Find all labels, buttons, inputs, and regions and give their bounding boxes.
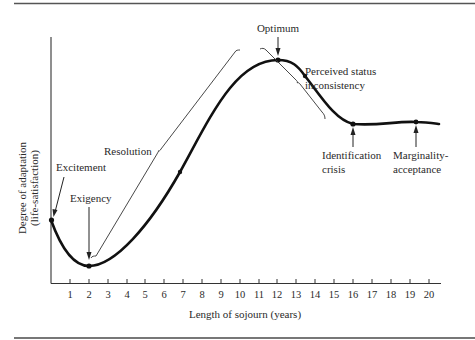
adaptation-curve [51,60,439,266]
tick-label: 12 [272,289,283,300]
excitement-arrow-icon [53,177,65,217]
tick-label: 3 [105,289,110,300]
x-ticks [70,279,429,284]
label-marginality-line1: Marginality- [393,149,449,161]
label-identification-line1: Identification [322,149,382,161]
marginality-arrow-icon [414,125,419,147]
tick-label: 1 [67,289,72,300]
label-excitement: Excitement [56,161,106,173]
label-marginality-line2: acceptance [393,163,441,175]
tick-label: 5 [142,289,147,300]
tick-label: 7 [180,289,185,300]
label-exigency: Exigency [70,192,112,204]
tick-label: 8 [199,289,204,300]
tick-label: 20 [424,289,435,300]
tick-label: 9 [218,289,223,300]
y-axis-title: Degree of adaptation (life-satisfaction) [16,141,41,234]
identification-arrow-icon [351,127,356,147]
tick-label: 13 [291,289,302,300]
tick-label: 14 [310,289,321,300]
label-perceived-line1: Perceived status [305,65,376,77]
label-resolution: Resolution [104,145,152,157]
tick-label: 6 [161,289,166,300]
tick-label: 11 [254,289,264,300]
x-axis-title: Length of sojourn (years) [189,308,301,321]
tick-label: 15 [329,289,340,300]
exigency-arrow-icon [87,207,92,260]
label-perceived-line2: inconsistency [305,79,365,91]
y-axis-title-line1: Degree of adaptation [16,141,28,234]
x-tick-labels: 1 2 3 4 5 6 7 8 9 10 11 12 13 14 15 16 1… [67,289,434,300]
tick-label: 10 [235,289,246,300]
tick-label: 17 [367,289,378,300]
y-axis-title-line2: (life-satisfaction) [28,150,41,226]
tick-label: 2 [86,289,91,300]
tick-label: 4 [124,289,130,300]
tick-label: 16 [348,289,359,300]
label-optimum: Optimum [257,22,300,34]
tick-label: 18 [386,289,397,300]
tick-label: 19 [405,289,416,300]
label-identification-line2: crisis [322,163,345,175]
adaptation-chart: 1 2 3 4 5 6 7 8 9 10 11 12 13 14 15 16 1… [0,0,475,340]
optimum-arrow-icon [276,37,281,56]
